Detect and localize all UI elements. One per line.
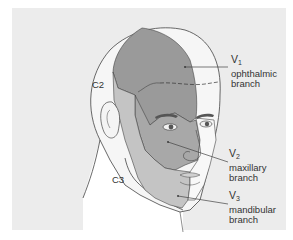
left-iris xyxy=(169,125,174,130)
v1-label: V1 ophthalmic branch xyxy=(231,54,277,90)
v3-label-branch: branch xyxy=(229,215,276,226)
c3-label: C3 xyxy=(112,174,124,185)
v2-label-branch: branch xyxy=(229,173,266,184)
v2-label: V2 maxillary branch xyxy=(229,148,266,184)
v1-label-branch: branch xyxy=(231,79,277,90)
right-iris xyxy=(205,122,209,126)
c2-label: C2 xyxy=(92,79,104,90)
v3-label: V3 mandibular branch xyxy=(229,190,276,226)
